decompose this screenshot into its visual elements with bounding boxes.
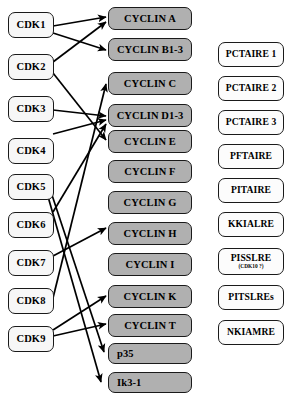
node-cyclin-e[interactable]: CYCLIN E bbox=[108, 130, 192, 153]
node-cdk2[interactable]: CDK2 bbox=[8, 54, 54, 80]
node-cyclin-b[interactable]: CYCLIN B1-3 bbox=[108, 38, 192, 61]
node-cdk7[interactable]: CDK7 bbox=[8, 250, 54, 276]
node-cyclin-d[interactable]: CYCLIN D1-3 bbox=[108, 104, 192, 127]
edge-cdk1-cyclin-b bbox=[53, 33, 106, 50]
node-cdk7-label: CDK7 bbox=[17, 257, 46, 268]
node-cyclin-e-label: CYCLIN E bbox=[124, 136, 176, 147]
edge-cdk3-cyclin-d bbox=[53, 110, 106, 116]
node-cdk9[interactable]: CDK9 bbox=[8, 326, 54, 352]
node-cdk8[interactable]: CDK8 bbox=[8, 288, 54, 314]
node-pisslre-label: PISSLRE bbox=[231, 253, 272, 263]
node-cdk5[interactable]: CDK5 bbox=[8, 174, 54, 200]
node-cyclin-i-label: CYCLIN I bbox=[126, 259, 175, 270]
node-cyclin-b-label: CYCLIN B1-3 bbox=[117, 44, 183, 55]
node-cyclin-i[interactable]: CYCLIN I bbox=[108, 253, 192, 276]
node-cyclin-k[interactable]: CYCLIN K bbox=[108, 285, 192, 308]
node-cyclin-t-label: CYCLIN T bbox=[124, 320, 176, 331]
node-pitslres[interactable]: PITSLREs bbox=[218, 285, 284, 310]
node-cyclin-g[interactable]: CYCLIN G bbox=[108, 191, 192, 214]
node-ik3-1-label: Ik3-1 bbox=[117, 377, 141, 388]
node-pitaire-label: PITAIRE bbox=[231, 185, 271, 195]
node-cyclin-f[interactable]: CYCLIN F bbox=[108, 160, 192, 183]
node-cdk6[interactable]: CDK6 bbox=[8, 212, 54, 238]
node-ik3-1[interactable]: Ik3-1 bbox=[108, 372, 192, 393]
node-cyclin-f-label: CYCLIN F bbox=[124, 166, 175, 177]
node-cdk5-label: CDK5 bbox=[17, 181, 46, 192]
node-pitslres-label: PITSLREs bbox=[228, 292, 274, 302]
edge-cdk8-cyclin-c bbox=[53, 84, 106, 298]
edge-cdk6-cyclin-d bbox=[53, 124, 106, 212]
node-pctaire-2[interactable]: PCTAIRE 2 bbox=[218, 76, 284, 101]
node-pisslre[interactable]: PISSLRE (CDK10 ?) bbox=[218, 248, 284, 275]
node-cyclin-h-label: CYCLIN H bbox=[123, 228, 176, 239]
node-kkialre[interactable]: KKIALRE bbox=[218, 212, 284, 237]
node-cdk1-label: CDK1 bbox=[17, 19, 46, 30]
edge-cdk7-cyclin-h bbox=[53, 228, 106, 256]
edge-cdk5-p35 bbox=[49, 186, 104, 352]
node-cyclin-k-label: CYCLIN K bbox=[123, 291, 176, 302]
node-pctaire-1[interactable]: PCTAIRE 1 bbox=[218, 42, 284, 67]
node-pctaire-3-label: PCTAIRE 3 bbox=[226, 117, 277, 127]
cdk-cyclin-diagram: CDK1 CDK2 CDK3 CDK4 CDK5 CDK6 CDK7 CDK8 … bbox=[0, 0, 292, 401]
node-pctaire-1-label: PCTAIRE 1 bbox=[226, 49, 277, 59]
edge-cdk4-cyclin-d bbox=[53, 120, 106, 134]
edge-cdk9-cyclin-t bbox=[53, 324, 106, 336]
node-p35-label: p35 bbox=[117, 348, 134, 359]
node-kkialre-label: KKIALRE bbox=[228, 219, 274, 229]
node-cyclin-a-label: CYCLIN A bbox=[124, 13, 176, 24]
node-cdk4[interactable]: CDK4 bbox=[8, 138, 54, 164]
node-cyclin-a[interactable]: CYCLIN A bbox=[108, 7, 192, 30]
node-nkiamre[interactable]: NKIAMRE bbox=[218, 320, 284, 345]
node-cdk1[interactable]: CDK1 bbox=[8, 12, 54, 38]
node-pisslre-sublabel: (CDK10 ?) bbox=[238, 264, 263, 270]
node-cdk9-label: CDK9 bbox=[17, 333, 46, 344]
edge-cdk2-cyclin-a bbox=[53, 22, 106, 62]
node-pftaire-label: PFTAIRE bbox=[230, 151, 272, 161]
node-cdk2-label: CDK2 bbox=[17, 61, 46, 72]
node-cdk6-label: CDK6 bbox=[17, 219, 46, 230]
node-cdk3[interactable]: CDK3 bbox=[8, 96, 54, 122]
node-p35[interactable]: p35 bbox=[108, 343, 192, 364]
node-cyclin-t[interactable]: CYCLIN T bbox=[108, 314, 192, 337]
edge-cdk9-cyclin-k bbox=[53, 296, 106, 330]
node-nkiamre-label: NKIAMRE bbox=[227, 327, 275, 337]
node-cdk4-label: CDK4 bbox=[17, 145, 46, 156]
node-cyclin-h[interactable]: CYCLIN H bbox=[108, 222, 192, 245]
node-cyclin-g-label: CYCLIN G bbox=[123, 197, 176, 208]
node-cyclin-d-label: CYCLIN D1-3 bbox=[117, 110, 184, 121]
node-pctaire-2-label: PCTAIRE 2 bbox=[226, 83, 277, 93]
node-cyclin-c-label: CYCLIN C bbox=[124, 78, 176, 89]
node-pftaire[interactable]: PFTAIRE bbox=[218, 144, 284, 169]
node-cdk8-label: CDK8 bbox=[17, 295, 46, 306]
node-pitaire[interactable]: PITAIRE bbox=[218, 178, 284, 203]
node-cyclin-c[interactable]: CYCLIN C bbox=[108, 72, 192, 95]
node-cdk3-label: CDK3 bbox=[17, 103, 46, 114]
edge-cdk1-cyclin-a bbox=[53, 17, 106, 26]
node-pctaire-3[interactable]: PCTAIRE 3 bbox=[218, 110, 284, 135]
edge-cdk2-cyclin-e bbox=[53, 73, 106, 140]
